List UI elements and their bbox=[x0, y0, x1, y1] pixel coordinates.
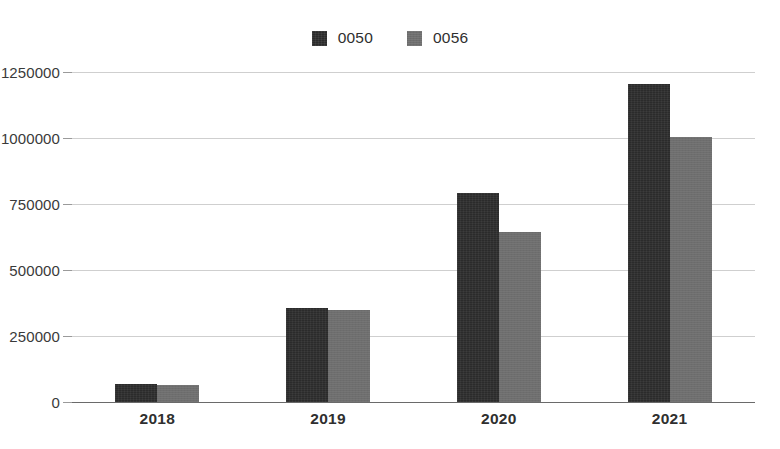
bar-0056-2020[interactable] bbox=[499, 232, 541, 402]
y-tick-mark bbox=[63, 270, 72, 271]
y-tick-label: 500000 bbox=[9, 262, 60, 279]
x-tick-label-2019: 2019 bbox=[310, 410, 346, 428]
y-tick-label: 0 bbox=[52, 394, 60, 411]
bar-0056-2021[interactable] bbox=[670, 137, 712, 402]
bar-0050-2019[interactable] bbox=[286, 308, 328, 402]
x-tick-label-2018: 2018 bbox=[140, 410, 176, 428]
y-axis-labels: 025000050000075000010000001250000 bbox=[0, 0, 60, 449]
bar-0056-2019[interactable] bbox=[328, 310, 370, 402]
x-axis-line bbox=[72, 402, 755, 403]
y-tick-label: 1000000 bbox=[1, 130, 60, 147]
bar-0050-2020[interactable] bbox=[457, 193, 499, 402]
x-tick-label-2021: 2021 bbox=[652, 410, 688, 428]
y-tick-mark bbox=[63, 402, 72, 403]
y-tick-label: 1250000 bbox=[1, 64, 60, 81]
x-axis-labels: 2018201920202021 bbox=[72, 410, 755, 440]
bar-0056-2018[interactable] bbox=[157, 385, 199, 402]
bar-0050-2018[interactable] bbox=[115, 384, 157, 402]
x-tick-label-2020: 2020 bbox=[481, 410, 517, 428]
bar-chart: 0050 0056 025000050000075000010000001250… bbox=[0, 0, 780, 449]
bars-layer bbox=[72, 0, 755, 402]
y-tick-mark bbox=[63, 138, 72, 139]
y-tick-label: 250000 bbox=[9, 328, 60, 345]
y-tick-mark bbox=[63, 336, 72, 337]
bar-0050-2021[interactable] bbox=[628, 84, 670, 402]
y-tick-mark bbox=[63, 204, 72, 205]
y-tick-label: 750000 bbox=[9, 196, 60, 213]
y-tick-mark bbox=[63, 72, 72, 73]
